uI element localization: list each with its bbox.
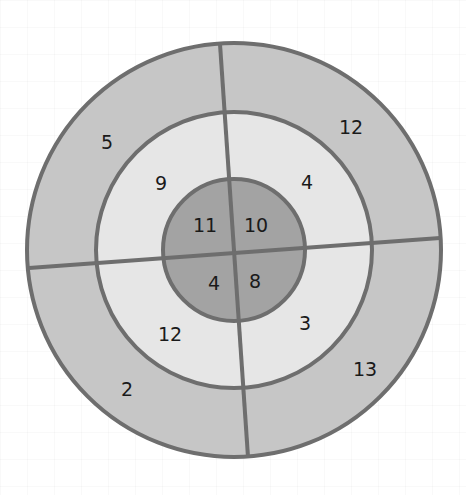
inner-bottom-right-value: 8 <box>249 270 261 292</box>
inner-bottom-left-value: 4 <box>208 272 220 294</box>
middle-bottom-left-value: 12 <box>158 323 182 345</box>
outer-top-left-value: 5 <box>101 131 113 153</box>
middle-top-right-value: 4 <box>301 171 313 193</box>
outer-top-right-value: 12 <box>339 116 363 138</box>
inner-top-left-value: 11 <box>193 214 217 236</box>
target-diagram: 5 12 2 13 9 4 12 3 11 10 4 8 <box>0 0 466 495</box>
outer-bottom-left-value: 2 <box>121 378 133 400</box>
middle-top-left-value: 9 <box>155 172 167 194</box>
middle-bottom-right-value: 3 <box>299 312 311 334</box>
outer-bottom-right-value: 13 <box>353 358 377 380</box>
inner-top-right-value: 10 <box>244 214 268 236</box>
